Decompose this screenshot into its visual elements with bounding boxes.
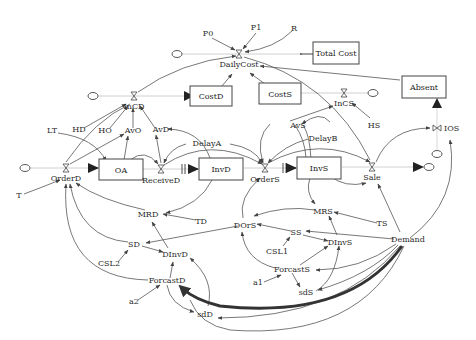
var-avs[interactable]: AvS (289, 121, 305, 130)
var-p0[interactable]: P0 (203, 29, 213, 38)
var-demand[interactable]: Demand (391, 235, 425, 244)
var-sdd[interactable]: sdD (197, 310, 213, 319)
var-ss[interactable]: SS (291, 228, 302, 237)
flow-sale[interactable]: Sale (363, 173, 381, 182)
var-dinvd[interactable]: DInvD (162, 250, 188, 259)
var-a1[interactable]: a1 (253, 278, 263, 287)
var-csl1[interactable]: CSL1 (266, 247, 288, 256)
stock-label: InvS (310, 164, 328, 173)
stock-costd[interactable]: CostD (190, 86, 232, 106)
cloud-icon (88, 93, 98, 100)
cloud-icon (424, 164, 434, 171)
stocks: Total Cost CostD CostS Absent OA InvD In… (99, 42, 446, 180)
var-forcasts[interactable]: ForcastS (274, 265, 310, 274)
var-td[interactable]: TD (195, 217, 207, 226)
var-lt[interactable]: LT (47, 126, 58, 135)
stock-oa[interactable]: OA (99, 159, 143, 180)
stock-label: Total Cost (316, 49, 358, 58)
stock-label: OA (115, 166, 128, 175)
cloud-icon (432, 151, 442, 158)
var-ts[interactable]: TS (377, 219, 388, 228)
var-csl2[interactable]: CSL2 (98, 259, 120, 268)
var-sds[interactable]: sdS (299, 288, 314, 297)
var-avd[interactable]: AvD (152, 125, 169, 134)
flow-incd[interactable]: InCD (124, 102, 145, 111)
var-mrd[interactable]: MRD (138, 210, 159, 219)
var-dinvs[interactable]: DInvS (328, 238, 353, 247)
var-mrs[interactable]: MRS (313, 207, 333, 216)
causal-links (24, 31, 452, 331)
var-avo[interactable]: AvO (124, 126, 142, 135)
var-p1[interactable]: P1 (251, 23, 261, 32)
stock-label: CostD (199, 92, 224, 101)
flow-incs[interactable]: InCS (334, 99, 354, 108)
var-t[interactable]: T (16, 191, 22, 200)
var-delaya[interactable]: DelayA (193, 139, 222, 148)
stock-label: Absent (409, 83, 439, 92)
var-forcastd[interactable]: ForcastD (149, 276, 186, 285)
stock-total-cost[interactable]: Total Cost (313, 42, 359, 64)
stock-invd[interactable]: InvD (199, 158, 243, 180)
var-hd[interactable]: HD (72, 125, 85, 134)
cloud-icon (20, 165, 30, 172)
flow-received[interactable]: ReceiveD (142, 176, 180, 185)
var-a2[interactable]: a2 (129, 297, 139, 306)
stock-invs[interactable]: InvS (297, 157, 341, 179)
stock-label: CostS (268, 90, 292, 99)
stock-flow-diagram: Total Cost CostD CostS Absent OA InvD In… (0, 0, 476, 340)
var-dors[interactable]: DOrS (234, 221, 256, 230)
var-delayb[interactable]: DelayB (309, 134, 338, 143)
stock-costs[interactable]: CostS (259, 83, 301, 104)
cloud-icon (368, 90, 378, 97)
var-sd[interactable]: SD (128, 240, 140, 249)
flow-dailycost[interactable]: DailyCost (219, 60, 259, 69)
flow-orders[interactable]: OrderS (250, 175, 280, 184)
flow-ios[interactable]: IOS (444, 124, 459, 133)
var-ho[interactable]: HO (98, 126, 112, 135)
var-r[interactable]: R (291, 24, 298, 33)
stock-label: InvD (211, 165, 230, 174)
flow-orderd[interactable]: OrderD (51, 174, 81, 183)
var-hs[interactable]: HS (368, 121, 380, 130)
cloud-icon (172, 51, 182, 58)
stock-absent[interactable]: Absent (402, 76, 446, 98)
